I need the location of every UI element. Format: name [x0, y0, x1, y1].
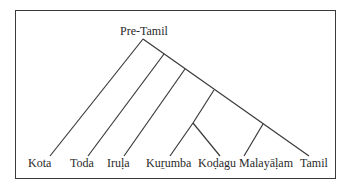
branch-toda: [88, 54, 164, 156]
branch-malayalam: [244, 124, 263, 156]
leaf-label-kurumba: Kuṟumba: [146, 156, 191, 170]
leaf-label-tamil: Tamil: [300, 156, 328, 170]
leaf-label-malayalam: Malayāḷam: [239, 156, 293, 170]
branch-irula: [124, 69, 185, 156]
leaf-label-kodagu: Koḍagu: [198, 156, 236, 170]
branch-tamil: [143, 39, 309, 156]
branch-kurumba-kodagu: [193, 90, 214, 123]
branch-kurumba: [170, 123, 193, 156]
branch-kodagu: [193, 123, 220, 156]
leaf-label-kota: Kota: [28, 156, 51, 170]
leaf-label-toda: Toda: [70, 156, 94, 170]
branch-kota: [50, 39, 143, 156]
leaf-label-irula: Iruḷa: [107, 156, 130, 170]
root-label: Pre-Tamil: [120, 24, 168, 38]
